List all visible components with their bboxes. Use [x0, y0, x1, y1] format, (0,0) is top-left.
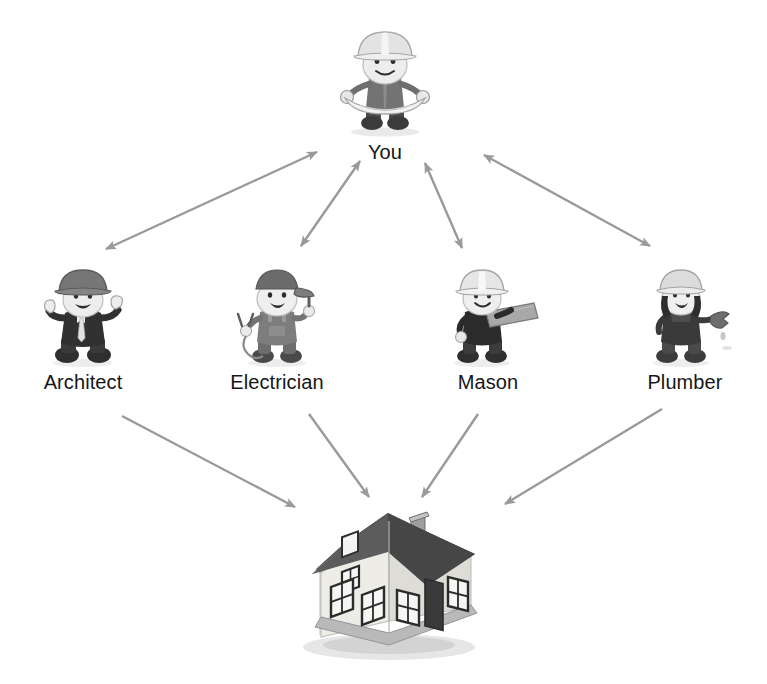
edge-architect-house [122, 416, 295, 507]
node-label-architect: Architect [44, 370, 123, 394]
hardhat-worker-carrying-plank-icon [434, 268, 542, 368]
hardhat-worker-with-blueprint-icon [329, 28, 441, 138]
edge-you-electrician [301, 161, 360, 246]
edge-mason-house [422, 414, 478, 497]
node-mason[interactable]: Mason [426, 268, 550, 394]
hardhat-worker-in-suit-thumbs-up-icon [31, 268, 135, 368]
edge-electrician-house [309, 414, 369, 497]
hardhat-worker-with-wrench-icon [631, 268, 739, 368]
node-house[interactable] [285, 495, 495, 665]
node-label-plumber: Plumber [647, 370, 722, 394]
node-you[interactable]: You [313, 28, 457, 164]
node-architect[interactable]: Architect [18, 268, 148, 394]
node-label-mason: Mason [458, 370, 519, 394]
edge-you-mason [425, 163, 462, 248]
node-label-electrician: Electrician [230, 370, 323, 394]
house-with-chimney-icon [285, 495, 495, 665]
worker-with-cap-and-pliers-icon [225, 268, 329, 368]
edge-you-architect [106, 152, 317, 249]
edge-plumber-house [505, 409, 662, 504]
node-electrician[interactable]: Electrician [212, 268, 342, 394]
edge-you-plumber [484, 155, 650, 246]
node-label-you: You [368, 140, 402, 164]
diagram-canvas: You [0, 0, 767, 684]
node-plumber[interactable]: Plumber [623, 268, 747, 394]
